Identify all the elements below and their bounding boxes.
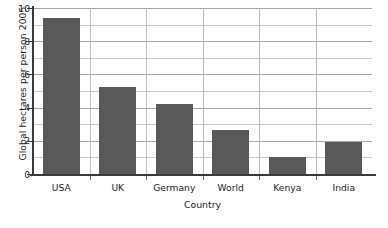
x-tick-mark <box>146 176 147 180</box>
y-tick-mark <box>27 141 32 142</box>
y-tick-mark <box>27 74 32 75</box>
y-tick-label: 2 <box>2 136 30 145</box>
x-tick-label-kenya: Kenya <box>259 182 316 193</box>
bar-kenya <box>269 157 306 174</box>
bar-chart-figure: Global hectares per person 2005 0246810 … <box>0 0 388 228</box>
x-tick-mark <box>90 176 91 180</box>
x-axis-tick-labels: USAUKGermanyWorldKenyaIndia <box>33 182 372 198</box>
x-tick-mark <box>316 176 317 180</box>
y-tick-label: 0 <box>2 170 30 179</box>
y-tick-label: 6 <box>2 70 30 79</box>
x-tick-label-uk: UK <box>90 182 147 193</box>
y-tick-label: 4 <box>2 103 30 112</box>
bar-usa <box>43 18 80 174</box>
gridline-vertical <box>259 8 260 174</box>
x-tick-label-india: India <box>316 182 373 193</box>
x-tick-label-usa: USA <box>33 182 90 193</box>
y-tick-mark <box>27 174 32 175</box>
y-axis-line <box>32 6 34 176</box>
gridline-vertical <box>146 8 147 174</box>
y-tick-label: 10 <box>2 4 30 13</box>
gridline-vertical <box>203 8 204 174</box>
x-axis-title: Country <box>33 199 372 210</box>
x-tick-mark <box>259 176 260 180</box>
bar-uk <box>99 87 136 174</box>
bar-germany <box>156 104 193 174</box>
y-axis-tick-labels: 0246810 <box>0 0 30 180</box>
y-tick-mark <box>27 108 32 109</box>
plot-area <box>33 8 372 174</box>
bar-world <box>212 130 249 174</box>
y-tick-label: 8 <box>2 37 30 46</box>
x-tick-label-germany: Germany <box>146 182 203 193</box>
y-tick-mark <box>27 41 32 42</box>
gridline-vertical <box>90 8 91 174</box>
y-tick-mark <box>27 8 32 9</box>
gridline-vertical <box>316 8 317 174</box>
bar-india <box>325 142 362 174</box>
x-tick-label-world: World <box>203 182 260 193</box>
x-tick-mark <box>203 176 204 180</box>
